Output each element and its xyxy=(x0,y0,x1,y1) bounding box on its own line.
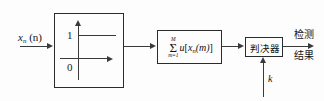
step-function-block: 1 0 xyxy=(54,13,124,88)
summation-expression: M Σ m=1 u[xn(m)] xyxy=(158,31,223,65)
summation-block: M Σ m=1 u[xn(m)] xyxy=(157,30,222,64)
input-signal-label: xn (n) xyxy=(18,31,42,45)
arrowhead-input xyxy=(47,43,53,49)
arrowhead-step-to-sum xyxy=(150,43,156,49)
step-horizontal-axis-arrow-icon xyxy=(107,56,113,62)
sum-close-bracket: ] xyxy=(210,42,213,53)
step-horizontal-axis xyxy=(60,58,111,59)
output-result-label: 检测 结果 xyxy=(287,24,321,66)
sum-arg-index: (m) xyxy=(196,42,210,53)
input-argument: (n) xyxy=(29,31,42,43)
block-diagram-canvas: xn (n) 1 0 M Σ m=1 u[xn(m)] 判决器 k xyxy=(0,0,324,101)
wire-threshold-input xyxy=(263,63,264,97)
decision-device-label: 判决器 xyxy=(246,38,284,58)
sum-lower-limit: m=1 xyxy=(168,53,178,59)
wire-step-to-sum xyxy=(124,46,151,47)
sum-summand: u[xn(m)] xyxy=(180,42,213,54)
output-label-line1: 检测 xyxy=(287,24,321,45)
decision-device-block: 判决器 xyxy=(245,37,283,57)
arrowhead-threshold-input xyxy=(260,57,266,63)
arrowhead-sum-to-decision xyxy=(238,43,244,49)
step-vertical-axis-arrow-icon xyxy=(75,20,81,26)
step-label-zero: 0 xyxy=(67,62,73,73)
step-vertical-axis xyxy=(78,24,79,80)
wire-input xyxy=(20,46,48,47)
step-level-line xyxy=(79,35,116,36)
threshold-label: k xyxy=(268,73,272,84)
sigma-operator: M Σ m=1 xyxy=(168,37,178,58)
output-label-line2: 结果 xyxy=(287,45,321,66)
input-subscript: n xyxy=(23,37,27,45)
step-label-one: 1 xyxy=(67,30,73,41)
wire-sum-to-decision xyxy=(222,46,239,47)
